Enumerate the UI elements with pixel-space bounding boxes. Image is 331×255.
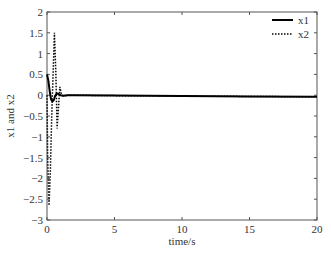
y-tick-label: −1	[31, 131, 43, 143]
plot-frame	[47, 12, 317, 220]
y-tick-label: −2.5	[23, 193, 43, 205]
x-axis-label: time/s	[169, 235, 196, 247]
y-tick-label: −1.5	[23, 152, 43, 164]
x-axis-ticks: 05101520	[44, 12, 323, 235]
x-tick-label: 5	[112, 223, 118, 235]
x-tick-label: 10	[177, 223, 189, 235]
legend-x2-label: x2	[298, 28, 309, 40]
x-tick-label: 15	[244, 223, 256, 235]
y-tick-label: −0.5	[23, 110, 43, 122]
y-axis-ticks: −3−2.5−2−1.5−1−0.500.511.52	[23, 6, 317, 226]
series-layer	[47, 33, 317, 206]
y-tick-label: 0	[38, 89, 44, 101]
legend-x1-label: x1	[298, 14, 309, 26]
legend: x1 x2	[272, 14, 309, 40]
series-x2	[47, 33, 317, 206]
plot-area	[47, 12, 317, 220]
line-chart: 05101520 −3−2.5−2−1.5−1−0.500.511.52 tim…	[0, 0, 331, 255]
series-x1	[47, 74, 317, 101]
y-tick-label: 0.5	[29, 68, 43, 80]
x-tick-label: 0	[44, 223, 50, 235]
x-tick-label: 20	[312, 223, 324, 235]
y-tick-label: −2	[31, 172, 43, 184]
y-tick-label: 1	[38, 48, 44, 60]
y-tick-label: 1.5	[29, 27, 43, 39]
y-tick-label: 2	[38, 6, 44, 18]
y-axis-label: x1 and x2	[4, 94, 16, 137]
y-tick-label: −3	[31, 214, 43, 226]
